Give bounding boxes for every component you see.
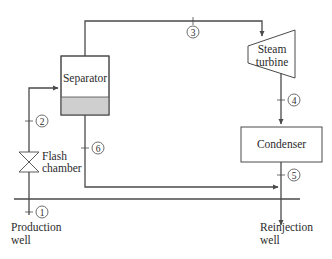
state-marker-4: 4 [288,94,300,106]
svg-text:6: 6 [96,144,101,154]
separator-liquid [62,97,109,115]
state-marker-6: 6 [92,142,104,154]
pipe-steam-to-turbine [85,21,262,56]
state-marker-5: 5 [288,169,300,181]
reinjection-well-label-line2: well [260,234,280,246]
separator-label: Separator [63,72,107,85]
production-well-label-line1: Production [11,221,62,233]
svg-text:1: 1 [40,208,45,218]
turbine-label-line1: Steam [258,43,287,55]
reinjection-well-label-line1: Reinjection [260,221,313,234]
production-well-label-line2: well [11,234,31,246]
svg-text:4: 4 [292,96,297,106]
turbine-label-line2: turbine [256,56,289,68]
svg-text:2: 2 [40,117,45,127]
svg-text:3: 3 [191,28,196,38]
flash-chamber-label-line1: Flash [42,150,67,162]
geothermal-plant-diagram: 1 2 3 4 5 6 Separator Steam turbine Cond… [0,0,332,259]
state-marker-2: 2 [36,115,48,127]
state-marker-3: 3 [187,26,199,38]
svg-text:5: 5 [292,171,297,181]
condenser-label: Condenser [257,138,306,150]
flash-chamber-valve-icon [19,152,39,172]
separator [61,56,109,115]
state-marker-1: 1 [36,206,48,218]
flash-chamber-label-line2: chamber [42,162,82,174]
